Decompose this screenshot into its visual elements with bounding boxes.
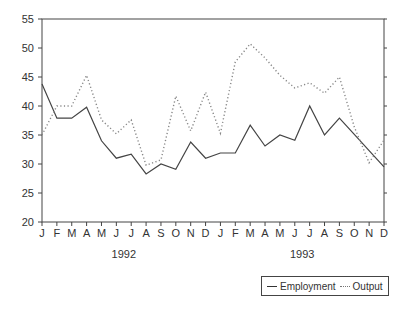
x-tick-label: J (39, 227, 45, 239)
chart-series (42, 44, 384, 174)
x-tick-label: F (232, 227, 239, 239)
year-label: 1993 (290, 248, 314, 260)
y-tick-label: 30 (22, 158, 34, 170)
solid-line-icon (267, 286, 277, 287)
x-tick-label: D (380, 227, 388, 239)
x-tick-label: M (275, 227, 284, 239)
y-tick-label: 25 (22, 187, 34, 199)
x-tick-label: M (97, 227, 106, 239)
x-tick-label: D (202, 227, 210, 239)
x-tick-label: N (187, 227, 195, 239)
y-tick-label: 50 (22, 42, 34, 54)
y-tick-label: 35 (22, 129, 34, 141)
x-tick-label: J (292, 227, 298, 239)
legend-label: Employment (280, 281, 336, 292)
x-tick-label: N (365, 227, 373, 239)
plot-frame (42, 19, 384, 222)
chart-axes: 2025303540455055JFMAMJJASONDJFMAMJJASOND… (22, 13, 388, 260)
x-tick-label: A (142, 227, 150, 239)
legend-item-employment: Employment (267, 281, 336, 292)
x-tick-label: M (246, 227, 255, 239)
x-tick-label: A (83, 227, 91, 239)
x-tick-label: J (218, 227, 224, 239)
y-tick-label: 20 (22, 216, 34, 228)
x-tick-label: S (157, 227, 164, 239)
line-chart: 2025303540455055JFMAMJJASONDJFMAMJJASOND… (0, 0, 410, 313)
legend-label: Output (353, 281, 383, 292)
year-label: 1992 (112, 248, 136, 260)
x-tick-label: O (172, 227, 181, 239)
legend-item-output: Output (340, 281, 383, 292)
x-tick-label: M (67, 227, 76, 239)
x-tick-label: O (350, 227, 359, 239)
y-tick-label: 45 (22, 71, 34, 83)
x-tick-label: J (114, 227, 120, 239)
x-tick-label: F (54, 227, 61, 239)
dotted-line-icon (340, 286, 350, 287)
x-tick-label: A (261, 227, 269, 239)
chart-legend: Employment Output (261, 276, 389, 296)
x-tick-label: J (307, 227, 313, 239)
y-tick-label: 40 (22, 100, 34, 112)
series-line-output (42, 44, 384, 165)
y-tick-label: 55 (22, 13, 34, 25)
x-tick-label: A (321, 227, 329, 239)
x-tick-label: S (336, 227, 343, 239)
x-tick-label: J (128, 227, 134, 239)
